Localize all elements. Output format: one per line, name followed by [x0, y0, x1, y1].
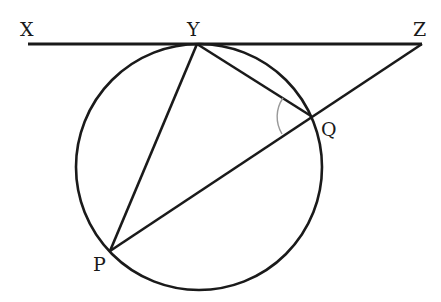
chord-yq — [197, 44, 311, 116]
secant-zp — [110, 44, 422, 251]
chord-yp — [110, 44, 197, 251]
label-z: Z — [413, 18, 426, 40]
label-x: X — [20, 18, 34, 40]
label-y: Y — [186, 18, 200, 40]
geometry-diagram: X Y Z Q P — [0, 0, 441, 302]
label-q: Q — [321, 118, 337, 140]
label-p: P — [93, 253, 106, 275]
angle-arc-q — [277, 98, 283, 134]
circle — [76, 44, 322, 290]
